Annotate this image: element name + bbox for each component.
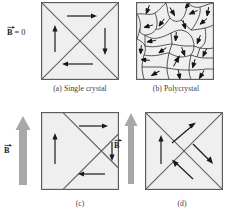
panel-b-polycrystal (136, 2, 214, 80)
b-equals-zero-text: = (12, 28, 21, 37)
panel-c-diagram (41, 112, 119, 190)
panel-c-border (42, 113, 119, 190)
field-arrow-up-icon (124, 113, 138, 185)
panel-d-diagram (145, 112, 223, 190)
b-symbol-text: B (4, 146, 9, 155)
panel-a-diagram (41, 2, 119, 80)
panel-c-wall-motion (41, 112, 119, 190)
panel-d-field-label: B (114, 141, 119, 150)
caption-d: (d) (130, 199, 228, 208)
panel-d-rotation (145, 112, 223, 190)
caption-b: (b) Polycrystal (124, 84, 228, 93)
magnetic-domains-figure: B = 0 (0, 0, 228, 220)
field-arrow-up-icon (15, 116, 31, 186)
b-value-text: 0 (21, 28, 25, 37)
caption-c: (c) (28, 199, 132, 208)
b-symbol-text: B (7, 28, 12, 37)
b-symbol-text: B (114, 141, 119, 150)
b-vector-symbol-a: B (7, 28, 12, 37)
caption-a: (a) Single crystal (28, 84, 132, 93)
b-vector-symbol-c: B (4, 146, 9, 155)
panel-b-diagram (136, 2, 214, 80)
panel-c-field-arrow (15, 116, 31, 190)
panel-a-single-crystal (41, 2, 119, 80)
panel-d-field-arrow (124, 113, 138, 189)
b-vector-symbol-d: B (114, 141, 119, 150)
panel-c-field-label: B (4, 146, 9, 155)
panel-a-field-label: B = 0 (7, 28, 25, 37)
